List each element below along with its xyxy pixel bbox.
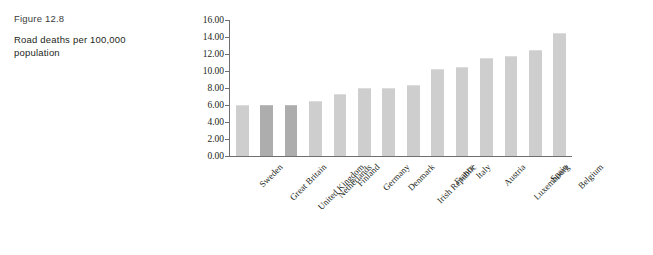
bar-slot bbox=[382, 20, 395, 156]
y-axis-tick-label: 2.00 bbox=[207, 134, 224, 144]
y-axis-tick-label: 4.00 bbox=[207, 117, 224, 127]
bar-slot bbox=[334, 20, 347, 156]
chart-plot-area: 0.002.004.006.008.0010.0012.0014.0016.00… bbox=[186, 14, 586, 164]
figure-caption: Figure 12.8 Road deaths per 100,000 popu… bbox=[14, 12, 164, 59]
bar bbox=[236, 105, 249, 156]
bar bbox=[382, 88, 395, 156]
x-axis-category-label: Great Britain bbox=[287, 162, 327, 202]
bar bbox=[407, 85, 420, 156]
figure-container: Figure 12.8 Road deaths per 100,000 popu… bbox=[0, 0, 653, 255]
y-axis-tick-labels: 0.002.004.006.008.0010.0012.0014.0016.00 bbox=[186, 14, 224, 156]
y-axis-tick-label: 0.00 bbox=[207, 151, 224, 161]
bar-slot bbox=[285, 20, 298, 156]
x-axis-category-label: Italy bbox=[474, 162, 493, 181]
x-axis-category-label: Sweden bbox=[258, 162, 285, 189]
bar bbox=[309, 101, 322, 156]
bar bbox=[456, 67, 469, 156]
bar bbox=[529, 50, 542, 156]
bar bbox=[480, 58, 493, 156]
bar-slot bbox=[529, 20, 542, 156]
bar bbox=[358, 88, 371, 156]
bar-series bbox=[230, 20, 572, 156]
y-axis-tick-label: 6.00 bbox=[207, 100, 224, 110]
y-axis-tick-label: 16.00 bbox=[203, 15, 224, 25]
figure-title: Road deaths per 100,000 population bbox=[14, 33, 164, 59]
x-axis-category-label: Belgium bbox=[576, 162, 605, 191]
bar bbox=[260, 105, 273, 156]
bar bbox=[505, 56, 518, 156]
x-axis-category-label: Austria bbox=[501, 162, 527, 188]
y-axis-tick-label: 14.00 bbox=[203, 32, 224, 42]
bar-slot bbox=[309, 20, 322, 156]
bar-slot bbox=[431, 20, 444, 156]
y-axis-tick-label: 10.00 bbox=[203, 66, 224, 76]
x-axis-line bbox=[229, 156, 572, 157]
bar-slot bbox=[456, 20, 469, 156]
x-axis-category-labels: SwedenGreat BritainUnited KingdomNetherl… bbox=[230, 162, 572, 232]
bar-slot bbox=[480, 20, 493, 156]
bar-slot bbox=[358, 20, 371, 156]
bar bbox=[431, 69, 444, 156]
figure-number: Figure 12.8 bbox=[14, 12, 164, 25]
bar bbox=[553, 33, 566, 156]
bar-slot bbox=[553, 20, 566, 156]
bar bbox=[285, 105, 298, 156]
bar-slot bbox=[505, 20, 518, 156]
y-axis-tick-label: 12.00 bbox=[203, 49, 224, 59]
bar-slot bbox=[407, 20, 420, 156]
bar-slot bbox=[236, 20, 249, 156]
bar-slot bbox=[260, 20, 273, 156]
y-axis-tick-label: 8.00 bbox=[207, 83, 224, 93]
bar bbox=[334, 94, 347, 156]
